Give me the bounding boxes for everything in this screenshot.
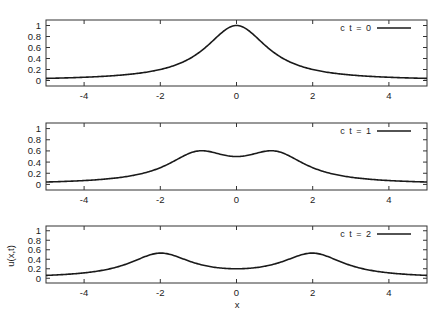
x-axis-label: x (235, 299, 240, 310)
data-line (46, 26, 427, 79)
y-tick-label: 0.4 (28, 254, 41, 265)
legend-label: c t = 2 (340, 229, 372, 239)
y-tick-label: 0.2 (28, 168, 41, 179)
x-tick-label: -2 (156, 90, 164, 101)
y-tick-label: 1 (36, 123, 41, 134)
figure: 00.20.40.60.81-4-2024c t = 000.20.40.60.… (0, 0, 444, 322)
x-tick-label: 0 (234, 287, 239, 298)
plot-panel-1: 00.20.40.60.81-4-2024c t = 1 (28, 123, 427, 205)
y-tick-label: 1 (36, 20, 41, 31)
x-tick-label: -4 (80, 90, 88, 101)
y-tick-label: 0.4 (28, 157, 41, 168)
y-tick-label: 0 (36, 179, 41, 190)
x-tick-label: 0 (234, 90, 239, 101)
legend-label: c t = 1 (340, 126, 372, 136)
y-tick-label: 0.6 (28, 145, 41, 156)
y-tick-label: 0.6 (28, 42, 41, 53)
y-tick-label: 0 (36, 75, 41, 86)
data-line (46, 253, 427, 275)
data-line (46, 151, 427, 182)
x-tick-label: 4 (386, 194, 391, 205)
y-tick-label: 0.6 (28, 244, 41, 255)
y-tick-label: 1 (36, 225, 41, 236)
y-axis-label: u(x,t) (5, 245, 16, 267)
legend-label: c t = 0 (340, 23, 372, 33)
y-tick-label: 0.2 (28, 64, 41, 75)
x-tick-label: -4 (80, 194, 88, 205)
x-tick-label: -2 (156, 194, 164, 205)
y-tick-label: 0.2 (28, 263, 41, 274)
y-tick-label: 0.8 (28, 134, 41, 145)
y-tick-label: 0.8 (28, 235, 41, 246)
plot-panel-2: 00.20.40.60.81-4-2024c t = 2 (28, 225, 427, 298)
x-tick-label: -4 (80, 287, 88, 298)
x-tick-label: 4 (386, 90, 391, 101)
x-tick-label: 2 (310, 194, 315, 205)
x-tick-label: 2 (310, 287, 315, 298)
x-tick-label: 2 (310, 90, 315, 101)
plot-panel-0: 00.20.40.60.81-4-2024c t = 0 (28, 20, 427, 101)
y-tick-label: 0 (36, 273, 41, 284)
y-tick-label: 0.4 (28, 53, 41, 64)
x-tick-label: -2 (156, 287, 164, 298)
x-tick-label: 0 (234, 194, 239, 205)
y-tick-label: 0.8 (28, 31, 41, 42)
x-tick-label: 4 (386, 287, 391, 298)
